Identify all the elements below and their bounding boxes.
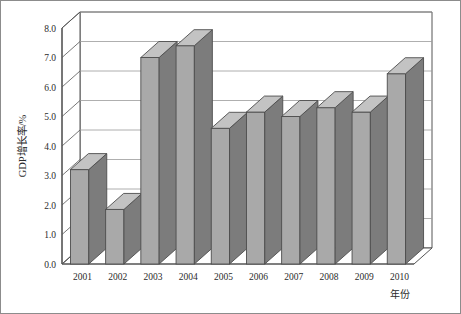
bar-front-face	[176, 46, 194, 264]
bar-front-face	[246, 112, 264, 264]
x-tick-label: 2004	[179, 272, 198, 282]
bar-side-face	[230, 112, 248, 264]
bar-column	[211, 112, 247, 264]
bar-front-face	[106, 209, 124, 264]
bar-front-face	[352, 112, 370, 264]
x-tick-label: 2010	[390, 272, 409, 282]
bar-side-face	[89, 154, 107, 264]
bar-front-face	[282, 117, 300, 265]
x-tick-label: 2005	[214, 272, 233, 282]
bar-side-face	[265, 96, 283, 264]
y-tick-label: 5.0	[44, 112, 56, 122]
bar-column	[282, 101, 318, 265]
bar-column	[106, 193, 142, 264]
bar-side-face	[159, 42, 177, 265]
y-axis-title: GDP增长率/%	[16, 114, 28, 177]
bar-side-face	[370, 96, 388, 264]
bar-side-face	[335, 92, 353, 264]
y-tick-label: 7.0	[44, 53, 56, 63]
bar-side-face	[194, 30, 212, 264]
chart-canvas: 0.01.02.03.04.05.06.07.08.02001200220032…	[0, 0, 461, 314]
bar-column	[176, 30, 212, 264]
y-tick-labels: 0.01.02.03.04.05.06.07.08.0	[44, 24, 56, 270]
bar-side-face	[300, 101, 318, 265]
y-tick-label: 1.0	[44, 230, 56, 240]
x-axis-title: 年份	[390, 288, 410, 300]
x-tick-label: 2001	[73, 272, 92, 282]
bar-side-face	[406, 58, 424, 264]
x-tick-label: 2006	[249, 272, 268, 282]
bar-front-face	[141, 58, 159, 265]
y-tick-label: 6.0	[44, 83, 56, 93]
x-tick-label: 2007	[284, 272, 303, 282]
bar-front-face	[387, 74, 405, 264]
y-tick-label: 4.0	[44, 142, 56, 152]
bar-column	[141, 42, 177, 265]
y-tick-label: 3.0	[44, 171, 56, 181]
gdp-growth-bar-chart: 0.01.02.03.04.05.06.07.08.02001200220032…	[0, 0, 461, 314]
bar-column	[387, 58, 423, 264]
y-tick-label: 8.0	[44, 24, 56, 34]
y-tick-label: 0.0	[44, 260, 56, 270]
bar-column	[70, 154, 106, 264]
bar-column	[352, 96, 388, 264]
bar-front-face	[211, 128, 229, 264]
bar-front-face	[70, 170, 88, 264]
x-tick-label: 2002	[108, 272, 127, 282]
x-tick-label: 2009	[355, 272, 374, 282]
bar-column	[317, 92, 353, 264]
bar-front-face	[317, 108, 335, 264]
bar-column	[246, 96, 282, 264]
x-tick-label: 2003	[144, 272, 163, 282]
x-tick-label: 2008	[320, 272, 339, 282]
y-tick-label: 2.0	[44, 201, 56, 211]
